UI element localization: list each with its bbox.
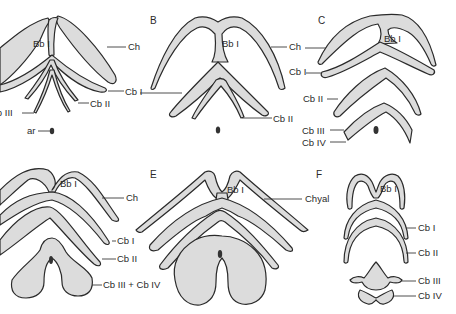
label-cb1-c: Cb I	[289, 66, 306, 77]
airway-e	[218, 250, 222, 258]
branchial-skeleton-diagram: Bb I Ch Cb I Cb II Cb III ar B Bb I Ch C…	[0, 0, 456, 314]
ceratobranchial-3-4-c	[344, 103, 412, 143]
label-bb1-a: Bb I	[33, 38, 50, 49]
ceratobranchial-3-a	[34, 70, 70, 113]
panel-b: B Bb I Ch Cb II	[140, 15, 301, 134]
label-cb3-a: Cb III	[0, 107, 13, 118]
airway-c	[374, 126, 379, 134]
label-chyal-e: Chyal	[305, 193, 329, 204]
ceratobranchial-4-f	[358, 290, 393, 304]
label-cb3-f: Cb III	[418, 275, 441, 286]
label-cb1-d: Cb I	[117, 235, 134, 246]
label-ar-a: ar	[27, 125, 35, 136]
airway-a	[50, 128, 54, 134]
ceratobranchial-3-f	[350, 262, 402, 290]
panel-letter-b: B	[150, 15, 157, 26]
label-cb2-f: Cb II	[418, 247, 438, 258]
airway-d	[49, 256, 53, 264]
ceratohyal-c	[318, 14, 436, 66]
label-ch-d: Ch	[126, 192, 138, 203]
panel-d: Bb I Ch Cb I Cb II Cb III + Cb IV	[0, 169, 161, 298]
ceratobranchial-1-b	[169, 62, 268, 117]
label-ch-a: Ch	[128, 41, 140, 52]
panel-letter-c: C	[318, 15, 325, 26]
label-bb1-b: Bb I	[222, 38, 239, 49]
label-cb1-a: Cb I	[125, 86, 142, 97]
label-cb3-cb4-d: Cb III + Cb IV	[103, 279, 161, 290]
label-cb3-c: Cb III	[302, 125, 325, 136]
label-bb1-f: Bb I	[380, 183, 397, 194]
ceratobranchial-2-a	[25, 60, 78, 101]
label-cb2-d: Cb II	[117, 253, 137, 264]
panel-e: E Bb I Chyal	[136, 169, 329, 305]
panel-a: Bb I Ch Cb I Cb II Cb III ar	[0, 16, 142, 136]
airway-b	[216, 126, 220, 133]
label-bb1-d: Bb I	[60, 178, 77, 189]
label-ch-b: Ch	[289, 41, 301, 52]
panel-c: C Bb I Cb I Cb II Cb III Cb IV	[289, 14, 436, 148]
panel-letter-f: F	[316, 169, 322, 180]
label-cb4-c: Cb IV	[302, 137, 326, 148]
label-cb1-f: Cb I	[418, 222, 435, 233]
label-bb1-e: Bb I	[227, 184, 244, 195]
label-cb2-a: Cb II	[90, 98, 110, 109]
label-cb2-c: Cb II	[303, 93, 323, 104]
label-cb4-f: Cb IV	[418, 290, 442, 301]
panel-f: F Bb I Cb I Cb II Cb III Cb IV	[316, 169, 442, 304]
ceratobranchial-2-f	[344, 218, 408, 263]
panel-letter-e: E	[150, 169, 157, 180]
label-bb1-c: Bb I	[384, 33, 401, 44]
basibranchial-a	[48, 18, 58, 56]
label-cb2-b: Cb II	[273, 113, 293, 124]
